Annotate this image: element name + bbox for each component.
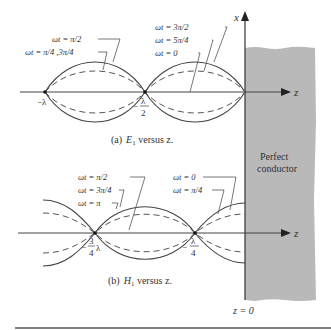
legend-b-left-2: ωt = 3π/4 (78, 185, 112, 195)
conductor-label-1: Perfect (260, 151, 289, 162)
h1-solid-lower (43, 233, 245, 266)
node-b1-den: 4 (89, 248, 94, 258)
leader-b-r2 (212, 190, 224, 214)
boundary-label: z = 0 (232, 305, 254, 316)
conductor-label-2: conductor (257, 163, 298, 174)
node-b2-den: 4 (191, 248, 196, 258)
e1-solid-upper (45, 62, 245, 92)
node-a2 (143, 90, 147, 94)
leader-a-l2 (98, 52, 107, 70)
h1-solid-upper (43, 200, 245, 233)
leader-b-r1 (203, 177, 236, 210)
x-axis-label: x (233, 11, 239, 23)
leader-a-r3 (190, 53, 200, 92)
node-b2 (193, 231, 197, 235)
caption-b: (b)H1 versus z. (108, 275, 172, 288)
node-label-minus: − (133, 101, 138, 111)
leader-a-l1 (98, 39, 120, 62)
node-label-minus-lambda: −λ (37, 97, 47, 107)
leader-b-l1 (129, 177, 145, 230)
caption-a: (a)E1 versus z. (111, 134, 173, 147)
leader-a-r2 (204, 40, 213, 71)
node-b1-minus: − (81, 242, 86, 252)
legend-b-left-1: ωt = π/2 (78, 172, 108, 182)
node-label-lambda: λ (141, 96, 146, 106)
legend-b-right-2: ωt = π/4 (173, 185, 203, 195)
node-b2-num: λ (191, 236, 196, 246)
legend-a-right-2: ωt = 5π/4 (155, 35, 189, 45)
standing-wave-diagram: x z ωt = π/2 ωt = π/4 ,3π/4 ωt = 3π/2 ωt… (0, 0, 331, 330)
node-b1 (93, 231, 97, 235)
node-b1-num: 3 (89, 236, 94, 246)
node-a1 (43, 90, 47, 94)
node-label-two: 2 (141, 108, 146, 118)
z-axis-a-label: z (293, 86, 299, 98)
legend-a-right-3: ωt = 0 (155, 48, 178, 58)
leader-a-r1 (214, 27, 227, 62)
legend-a-left-1: ωt = π/2 (52, 34, 82, 44)
h1-dashed-upper (43, 213, 245, 233)
legend-b-right-1: ωt = 0 (173, 172, 196, 182)
x-axis-arrow-icon (241, 11, 249, 21)
node-b2-minus: − (182, 242, 187, 252)
z-axis-b-label: z (293, 227, 299, 239)
legend-a-left-2: ωt = π/4 ,3π/4 (25, 47, 74, 57)
e1-dashed-upper (45, 71, 245, 92)
leader-b-l2 (119, 190, 124, 207)
legend-b-left-3: ωt = π (78, 198, 101, 208)
node-b1-lambda: λ (96, 243, 101, 253)
leader-b-l3 (112, 203, 118, 209)
legend-a-right-1: ωt = 3π/2 (155, 22, 189, 32)
h1-dashed-lower (43, 233, 245, 253)
